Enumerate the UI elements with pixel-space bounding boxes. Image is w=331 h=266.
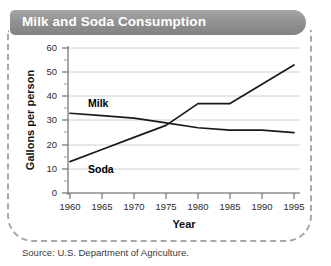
- x-tick-label: 1960: [59, 201, 80, 212]
- x-tick-label: 1995: [283, 201, 304, 212]
- series-line-soda: [70, 65, 294, 162]
- x-tick-label: 1965: [91, 201, 112, 212]
- y-tick-label: 60: [46, 42, 57, 53]
- series-label-soda: Soda: [88, 163, 114, 175]
- chart-figure: Milk and Soda Consumption: [0, 0, 331, 266]
- y-tick-label: 20: [46, 139, 57, 150]
- y-tick-label: 40: [46, 90, 57, 101]
- x-tick-label: 1970: [123, 201, 144, 212]
- x-tick-label: 1985: [219, 201, 240, 212]
- x-tick-label: 1980: [187, 201, 208, 212]
- series-line-milk: [70, 113, 294, 132]
- line-chart: 60 50 40 30 20 10 0 1960 1965 1970 1975 …: [0, 0, 331, 266]
- y-axis-ticks: [62, 48, 68, 193]
- series-label-milk: Milk: [88, 97, 109, 109]
- x-tick-label: 1990: [251, 201, 272, 212]
- y-tick-label: 0: [52, 187, 57, 198]
- y-tick-label: 30: [46, 114, 57, 125]
- y-tick-label: 50: [46, 66, 57, 77]
- x-tick-label: 1975: [155, 201, 176, 212]
- source-caption: Source: U.S. Department of Agriculture.: [22, 247, 189, 258]
- y-axis-title: Gallons per person: [24, 70, 36, 171]
- y-tick-label: 10: [46, 163, 57, 174]
- x-axis-title: Year: [172, 218, 196, 230]
- x-axis-ticks: [70, 193, 294, 199]
